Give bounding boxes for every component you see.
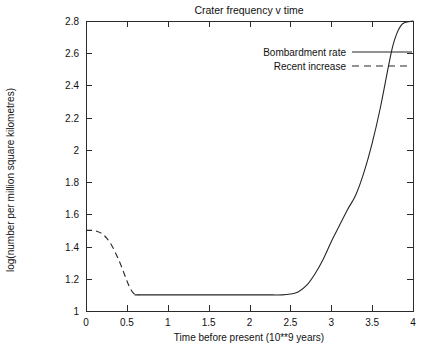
x-tick-label: 4 — [410, 317, 416, 328]
chart-title: Crater frequency v time — [194, 4, 303, 16]
x-tick-label: 0 — [83, 317, 89, 328]
legend-label-2: Recent increase — [274, 61, 347, 72]
x-tick-label: 0.5 — [120, 317, 134, 328]
y-tick-label: 2.4 — [65, 80, 79, 91]
y-tick-label: 1.8 — [65, 177, 79, 188]
y-tick-label: 2.2 — [65, 113, 79, 124]
x-tick-label: 1.5 — [202, 317, 216, 328]
y-axis-label: log(number per million square kilometres… — [5, 88, 16, 272]
x-axis-label: Time before present (10**9 years) — [174, 332, 324, 343]
y-tick-label: 1.4 — [65, 242, 79, 253]
x-tick-label: 1 — [165, 317, 171, 328]
legend-label-1: Bombardment rate — [263, 47, 346, 58]
y-tick-label: 2 — [73, 145, 79, 156]
crater-frequency-chart: Crater frequency v time 00.511.522.533.5… — [0, 0, 429, 350]
x-tick-label: 3 — [328, 317, 334, 328]
y-tick-label: 1 — [73, 306, 79, 317]
x-tick-label: 3.5 — [365, 317, 379, 328]
y-tick-label: 1.6 — [65, 209, 79, 220]
y-tick-label: 1.2 — [65, 274, 79, 285]
x-axis-tick-labels: 00.511.522.533.54 — [83, 317, 416, 328]
x-tick-label: 2 — [247, 317, 253, 328]
y-tick-label: 2.6 — [65, 48, 79, 59]
y-tick-label: 2.8 — [65, 16, 79, 27]
chart-figure: Crater frequency v time 00.511.522.533.5… — [0, 0, 429, 350]
x-tick-label: 2.5 — [283, 317, 297, 328]
